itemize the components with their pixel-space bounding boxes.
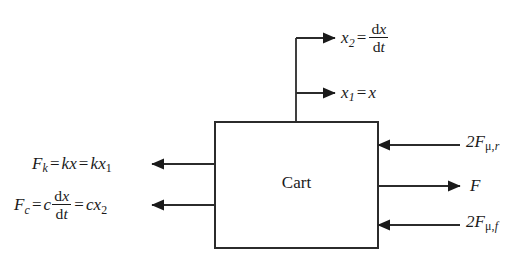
drive-force-symbol: F — [470, 176, 480, 195]
label-rear-friction-force: 2Fμ,r — [466, 133, 499, 150]
spring-force-eq-1: = — [48, 154, 62, 173]
spring-force-eq-2: = — [77, 154, 91, 173]
velocity-denominator-var: t — [381, 38, 385, 55]
front-friction-symbol: F — [475, 212, 485, 231]
damper-force-term-cx2-subscript: 2 — [101, 203, 107, 217]
velocity-state-fraction: dxdt — [369, 21, 388, 54]
diagram-canvas: Cart x2=dxdt x1=x Fk=kx=kx1 Fc=cdxdt=cx2… — [0, 0, 520, 261]
damper-force-coefficient: c — [44, 195, 52, 214]
label-velocity-state: x2=dxdt — [341, 21, 389, 54]
velocity-state-lhs: x — [341, 28, 349, 47]
diagram-vector-layer — [0, 0, 520, 261]
velocity-denominator-d: d — [373, 38, 381, 55]
position-state-relation: = — [355, 83, 369, 102]
damper-force-term-cx2: cx — [86, 195, 101, 214]
cart-block-label: Cart — [215, 173, 378, 193]
damper-force-numerator: dx — [52, 188, 71, 205]
position-state-rhs: x — [368, 83, 376, 102]
label-front-friction-force: 2Fμ,f — [466, 213, 498, 230]
velocity-state-denominator: dt — [369, 38, 388, 55]
rear-friction-symbol: F — [475, 132, 485, 151]
damper-force-eq-1: = — [30, 195, 44, 214]
front-friction-coefficient: 2 — [466, 212, 475, 231]
label-spring-force: Fk=kx=kx1 — [32, 155, 112, 172]
label-drive-force: F — [470, 177, 480, 194]
front-friction-subscript: μ,f — [485, 219, 498, 233]
position-state-lhs-subscript: 1 — [349, 90, 355, 104]
velocity-numerator-var: x — [379, 20, 386, 37]
front-friction-subscript-index: f — [495, 219, 498, 233]
label-position-state: x1=x — [341, 84, 376, 101]
cart-block-label-text: Cart — [282, 173, 311, 192]
damper-force-symbol: F — [14, 195, 24, 214]
damper-force-fraction: dxdt — [52, 188, 71, 221]
position-state-lhs: x — [341, 83, 349, 102]
damper-numerator-d: d — [54, 187, 62, 204]
spring-force-term-kx1: kx — [91, 154, 106, 173]
spring-force-term-kx1-subscript: 1 — [106, 161, 112, 175]
velocity-state-lhs-subscript: 2 — [349, 36, 355, 50]
label-damper-force: Fc=cdxdt=cx2 — [14, 188, 107, 221]
velocity-state-relation: = — [355, 28, 369, 47]
spring-force-term-kx: kx — [62, 154, 77, 173]
damper-force-eq-2: = — [72, 195, 86, 214]
spring-force-symbol: F — [32, 154, 42, 173]
rear-friction-subscript-index: r — [495, 139, 500, 153]
velocity-state-numerator: dx — [369, 21, 388, 38]
damper-force-denominator: dt — [52, 205, 71, 222]
rear-friction-subscript: μ,r — [485, 139, 499, 153]
rear-friction-coefficient: 2 — [466, 132, 475, 151]
damper-denominator-var: t — [63, 205, 67, 222]
damper-numerator-var: x — [62, 187, 69, 204]
